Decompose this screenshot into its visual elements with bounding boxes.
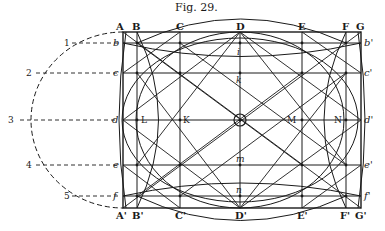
svg-text:c: c: [113, 67, 119, 78]
dashed-leaders: [20, 43, 118, 196]
svg-text:4: 4: [26, 160, 32, 170]
svg-text:b': b': [364, 37, 373, 48]
left-point-labels: b c d e f: [112, 37, 119, 201]
svg-text:b: b: [113, 37, 119, 48]
svg-text:2: 2: [26, 68, 32, 78]
svg-text:A: A: [115, 21, 124, 32]
bottom-point-labels: A' B' C' D' E' F' G': [115, 210, 367, 221]
svg-text:C': C': [175, 210, 186, 221]
svg-text:d: d: [112, 114, 118, 125]
center-point: [239, 119, 242, 122]
svg-text:F: F: [342, 21, 349, 32]
svg-text:C: C: [176, 21, 184, 32]
svg-text:E: E: [298, 21, 306, 32]
svg-text:G: G: [356, 21, 365, 32]
svg-text:L: L: [141, 115, 147, 125]
svg-text:D': D': [235, 210, 247, 221]
svg-text:k: k: [236, 75, 241, 85]
svg-text:f: f: [112, 190, 119, 201]
svg-text:n: n: [236, 185, 242, 195]
figure-caption: Fig. 29.: [175, 1, 218, 14]
svg-text:K: K: [183, 115, 190, 125]
right-point-labels: b' c' d' e' f': [363, 37, 373, 201]
svg-text:m: m: [236, 154, 245, 164]
svg-text:N: N: [334, 115, 342, 125]
svg-text:D: D: [236, 21, 245, 32]
svg-text:d': d': [364, 114, 373, 125]
svg-text:B: B: [132, 21, 140, 32]
svg-text:A': A': [115, 210, 127, 221]
svg-text:c': c': [364, 67, 372, 78]
svg-text:B': B': [132, 210, 144, 221]
svg-text:M: M: [287, 115, 296, 125]
svg-text:i: i: [237, 47, 240, 57]
svg-text:G': G': [355, 210, 367, 221]
svg-text:F': F': [340, 210, 350, 221]
svg-text:f': f': [363, 190, 370, 201]
svg-text:E': E': [297, 210, 308, 221]
top-point-labels: A B C D E F G: [115, 21, 365, 32]
arc-number-labels: 1 2 3 4 5: [8, 38, 70, 201]
geometric-construction-diagram: Fig. 29.: [0, 0, 385, 231]
svg-text:e: e: [113, 159, 119, 170]
svg-text:e': e': [364, 159, 373, 170]
svg-text:1: 1: [64, 38, 70, 48]
svg-text:3: 3: [8, 115, 14, 125]
svg-text:5: 5: [64, 191, 70, 201]
